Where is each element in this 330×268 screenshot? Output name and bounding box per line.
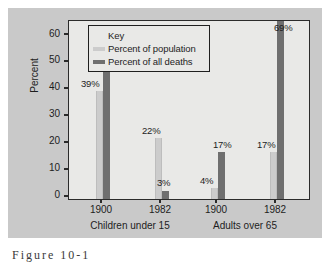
bar-deaths-children-1982 [162,191,169,199]
y-tick-label-30: 30 [38,108,60,119]
legend-swatch-population-icon [93,47,105,51]
figure-caption: Figure 10-1 [12,248,90,263]
legend-row-deaths: Percent of all deaths [93,55,205,68]
bar-label-deaths-adults-1982: 69% [274,22,292,33]
bar-label-deaths-adults-1900: 17% [213,139,231,150]
bar-label-population-children-1900: 39% [81,78,99,89]
y-tick-label-60: 60 [38,28,60,39]
bar-deaths-adults-1900 [218,152,225,199]
y-tick-label-50: 50 [38,54,60,65]
bar-deaths-children-1900 [103,52,110,199]
legend-title-row: Key [93,29,205,42]
bar-label-population-children-1982: 22% [142,125,160,136]
y-tick-label-10: 10 [38,162,60,173]
legend-swatch-deaths-icon [93,60,105,64]
bar-population-children-1900 [96,91,103,199]
bar-population-adults-1900 [211,188,218,199]
group-label-adults: Adults over 65 [190,220,300,231]
figure-panel: Percent 60 50 40 30 20 10 0 39% 53% 2 [8,8,322,238]
bar-deaths-adults-1982 [277,20,284,199]
x-tick-mark-2 [159,199,161,203]
legend-label-population: Percent of population [108,43,196,54]
y-tick-label-20: 20 [38,135,60,146]
legend-row-population: Percent of population [93,42,205,55]
legend-spacer-icon [93,34,105,38]
x-tick-label-adults-1900: 1900 [196,204,236,215]
x-tick-mark-4 [274,199,276,203]
y-tick-label-40: 40 [38,81,60,92]
bar-population-adults-1982 [270,152,277,199]
figure-page: Percent 60 50 40 30 20 10 0 39% 53% 2 [0,0,330,268]
legend-label-deaths: Percent of all deaths [108,56,193,67]
group-label-children: Children under 15 [75,220,185,231]
x-tick-mark-3 [215,199,217,203]
x-tick-label-children-1982: 1982 [140,204,180,215]
legend-title: Key [108,30,124,41]
x-tick-label-adults-1982: 1982 [255,204,295,215]
bar-label-deaths-children-1982: 3% [157,177,170,188]
y-tick-label-0: 0 [38,189,60,200]
bar-label-population-adults-1982: 17% [257,139,275,150]
bar-label-population-adults-1900: 4% [200,175,213,186]
bar-population-children-1982 [155,138,162,199]
chart-legend: Key Percent of population Percent of all… [88,25,210,72]
x-tick-mark-1 [100,199,102,203]
x-tick-label-children-1900: 1900 [81,204,121,215]
